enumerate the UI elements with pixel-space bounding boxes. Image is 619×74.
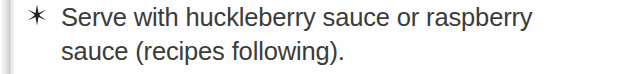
list-item-line-1: Serve with huckleberry sauce or raspberr… bbox=[61, 4, 532, 30]
list-item-line-2: sauce (recipes following). bbox=[61, 38, 345, 64]
page-edge-shading bbox=[0, 0, 16, 74]
list-item-text-block: Serve with huckleberry sauce or raspberr… bbox=[61, 0, 613, 74]
page-edge-fold-line bbox=[9, 0, 10, 74]
six-pointed-star-bullet-icon bbox=[26, 4, 48, 26]
scanned-page-fragment: Serve with huckleberry sauce or raspberr… bbox=[0, 0, 619, 74]
